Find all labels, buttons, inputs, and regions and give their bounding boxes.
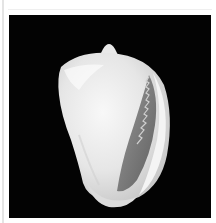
shell-photo: Seashell specimen — [9, 15, 211, 218]
frame-line-left — [2, 0, 4, 223]
frame-line-top — [8, 9, 212, 10]
shell-icon — [9, 15, 211, 218]
